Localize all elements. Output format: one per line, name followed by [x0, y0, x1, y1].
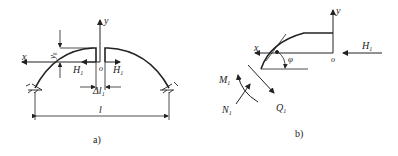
label-span-l: l	[99, 104, 102, 115]
m1-moment-arc	[238, 75, 258, 102]
label-m1: M1	[218, 74, 230, 86]
label-h1-right: H1	[112, 64, 123, 76]
label-h1-b: H1	[361, 40, 372, 52]
label-o-a: o	[99, 64, 103, 73]
label-y-b: y	[335, 5, 341, 16]
label-x-a: x	[21, 51, 27, 62]
angle-arc	[278, 52, 285, 68]
label-delta-l: Δl1	[92, 85, 105, 97]
left-support	[26, 84, 42, 93]
label-o-b: o	[331, 55, 335, 64]
label-y-a: y	[103, 15, 109, 26]
figure-b	[236, 10, 382, 104]
left-arch-half	[35, 48, 96, 88]
label-q1: Q1	[276, 102, 286, 114]
label-h1-left: H1	[72, 64, 83, 76]
diagram-canvas: y x o H1 H1 yk Δl1 l a) y x o H	[0, 0, 398, 156]
label-phi: φ	[288, 54, 293, 64]
label-yk: yk	[47, 52, 58, 60]
label-x-b: x	[253, 42, 259, 53]
caption-a: a)	[93, 134, 101, 146]
arch-segment-b	[261, 33, 333, 69]
figure-a-labels: y x o H1 H1 yk Δl1 l a)	[21, 15, 123, 146]
caption-b: b)	[295, 128, 303, 140]
figure-b-labels: y x o H1 φ M1 N1 Q1 b)	[218, 5, 372, 140]
label-n1: N1	[221, 104, 232, 116]
